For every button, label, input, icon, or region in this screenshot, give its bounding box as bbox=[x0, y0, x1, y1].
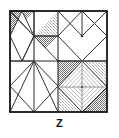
figure-container: Z bbox=[0, 0, 119, 138]
vertex-center bbox=[57, 60, 60, 63]
node-top bbox=[81, 60, 83, 62]
vertex-tr-apex bbox=[81, 35, 84, 38]
node-center bbox=[81, 86, 83, 88]
figure-caption: Z bbox=[0, 116, 119, 130]
node-left bbox=[57, 86, 59, 88]
vertex-tl-inner bbox=[33, 35, 36, 38]
